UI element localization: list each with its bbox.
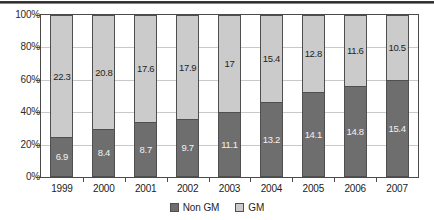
bar-value-label-non-gm: 14.8 xyxy=(347,127,364,137)
bar-value-label-non-gm: 14.1 xyxy=(305,130,322,140)
bar-value-label-gm: 15.4 xyxy=(263,54,280,64)
bar-value-label-non-gm: 8.7 xyxy=(140,145,152,155)
x-axis-tick: 2006 xyxy=(334,178,376,200)
bar-segment-non-gm[interactable]: 13.2 xyxy=(261,102,282,176)
bar-segment-non-gm[interactable]: 8.4 xyxy=(93,129,114,176)
legend-swatch-icon xyxy=(235,203,244,212)
x-axis-tick-label: 2000 xyxy=(83,183,125,194)
bar-segment-gm[interactable]: 20.8 xyxy=(93,16,114,129)
x-axis-tick-label: 2005 xyxy=(292,183,334,194)
bar-value-label-gm: 20.8 xyxy=(95,68,112,78)
bar-value-label-gm: 11.6 xyxy=(347,46,364,56)
bar-segment-gm[interactable]: 17 xyxy=(219,16,240,112)
x-axis-tick-label: 2003 xyxy=(209,183,251,194)
x-axis-tick: 2002 xyxy=(167,178,209,200)
x-axis-tick-label: 2002 xyxy=(167,183,209,194)
x-axis-tick: 2000 xyxy=(83,178,125,200)
bar-segment-gm[interactable]: 22.3 xyxy=(51,16,72,137)
bar-segment-gm[interactable]: 17.9 xyxy=(177,16,198,119)
bar-segment-gm[interactable]: 15.4 xyxy=(261,16,282,102)
bar-value-label-non-gm: 9.7 xyxy=(181,143,193,153)
bar-segment-gm[interactable]: 10.5 xyxy=(387,16,408,80)
y-axis-tick-label: 20% xyxy=(4,139,40,150)
legend-item[interactable]: GM xyxy=(235,202,264,213)
bar-segment-non-gm[interactable]: 9.7 xyxy=(177,119,198,176)
bars-layer: 22.36.920.88.417.68.717.99.71711.115.413… xyxy=(41,15,418,177)
x-axis-tick-label: 2001 xyxy=(125,183,167,194)
stacked-bar[interactable]: 22.36.9 xyxy=(50,15,73,177)
stacked-bar[interactable]: 17.68.7 xyxy=(134,15,157,177)
x-axis-tick-mark xyxy=(167,178,168,182)
bar-segment-non-gm[interactable]: 6.9 xyxy=(51,137,72,176)
bar-value-label-gm: 12.8 xyxy=(305,49,322,59)
bar-segment-gm[interactable]: 12.8 xyxy=(303,16,324,92)
x-axis-tick: 2001 xyxy=(125,178,167,200)
stacked-bar-chart: 100%80%60%40%20%0% 22.36.920.88.417.68.7… xyxy=(0,0,434,220)
y-axis-tick-label: 100% xyxy=(4,9,40,20)
stacked-bar[interactable]: 1711.1 xyxy=(218,15,241,177)
bar-segment-non-gm[interactable]: 8.7 xyxy=(135,122,156,176)
stacked-bar[interactable]: 20.88.4 xyxy=(92,15,115,177)
stacked-bar[interactable]: 11.614.8 xyxy=(344,15,367,177)
bar-value-label-gm: 22.3 xyxy=(53,72,70,82)
bar-value-label-non-gm: 6.9 xyxy=(56,152,68,162)
x-axis-tick-label: 2006 xyxy=(334,183,376,194)
x-axis-tick-mark xyxy=(376,178,377,182)
bar-slot: 1711.1 xyxy=(209,15,251,177)
bar-segment-non-gm[interactable]: 11.1 xyxy=(219,112,240,176)
bar-slot: 20.88.4 xyxy=(83,15,125,177)
bar-value-label-non-gm: 11.1 xyxy=(221,140,238,150)
bar-value-label-non-gm: 8.4 xyxy=(98,148,110,158)
x-axis: 199920002001200220032004200520062007 xyxy=(41,178,418,200)
x-axis-tick-label: 2004 xyxy=(250,183,292,194)
bar-slot: 15.413.2 xyxy=(250,15,292,177)
x-axis-tick-mark xyxy=(209,178,210,182)
bar-slot: 12.814.1 xyxy=(292,15,334,177)
y-axis-tick-label: 0% xyxy=(4,171,40,182)
bar-segment-gm[interactable]: 17.6 xyxy=(135,16,156,122)
stacked-bar[interactable]: 12.814.1 xyxy=(302,15,325,177)
x-axis-tick: 2007 xyxy=(376,178,418,200)
x-axis-tick: 2003 xyxy=(209,178,251,200)
bar-value-label-gm: 17 xyxy=(225,59,235,69)
x-axis-tick-label: 2007 xyxy=(376,183,418,194)
chart-legend: Non GMGM xyxy=(0,199,434,215)
x-axis-tick: 2005 xyxy=(292,178,334,200)
legend-item[interactable]: Non GM xyxy=(170,202,220,213)
bar-value-label-non-gm: 13.2 xyxy=(263,135,280,145)
bar-slot: 11.614.8 xyxy=(334,15,376,177)
y-axis-tick-label: 40% xyxy=(4,106,40,117)
y-axis: 100%80%60%40%20%0% xyxy=(0,14,40,178)
bar-segment-non-gm[interactable]: 14.8 xyxy=(345,86,366,176)
legend-label: GM xyxy=(248,202,264,213)
bar-value-label-gm: 17.6 xyxy=(137,64,154,74)
bar-segment-non-gm[interactable]: 14.1 xyxy=(303,92,324,176)
x-axis-tick: 1999 xyxy=(41,178,83,200)
x-axis-tick-mark xyxy=(125,178,126,182)
legend-swatch-icon xyxy=(170,203,179,212)
stacked-bar[interactable]: 10.515.4 xyxy=(386,15,409,177)
stacked-bar[interactable]: 15.413.2 xyxy=(260,15,283,177)
y-axis-tick-label: 60% xyxy=(4,74,40,85)
x-axis-tick-mark xyxy=(83,178,84,182)
bar-value-label-gm: 10.5 xyxy=(388,43,405,53)
stacked-bar[interactable]: 17.99.7 xyxy=(176,15,199,177)
x-axis-tick-mark xyxy=(334,178,335,182)
bar-slot: 10.515.4 xyxy=(376,15,418,177)
x-axis-tick-label: 1999 xyxy=(41,183,83,194)
x-axis-tick: 2004 xyxy=(250,178,292,200)
y-axis-tick-label: 80% xyxy=(4,41,40,52)
bar-slot: 17.68.7 xyxy=(125,15,167,177)
bar-value-label-non-gm: 15.4 xyxy=(388,124,405,134)
legend-label: Non GM xyxy=(183,202,220,213)
bar-value-label-gm: 17.9 xyxy=(179,63,196,73)
bar-slot: 17.99.7 xyxy=(167,15,209,177)
x-axis-tick-mark xyxy=(250,178,251,182)
bar-segment-gm[interactable]: 11.6 xyxy=(345,16,366,86)
x-axis-tick-mark xyxy=(292,178,293,182)
bar-segment-non-gm[interactable]: 15.4 xyxy=(387,80,408,176)
bar-slot: 22.36.9 xyxy=(41,15,83,177)
